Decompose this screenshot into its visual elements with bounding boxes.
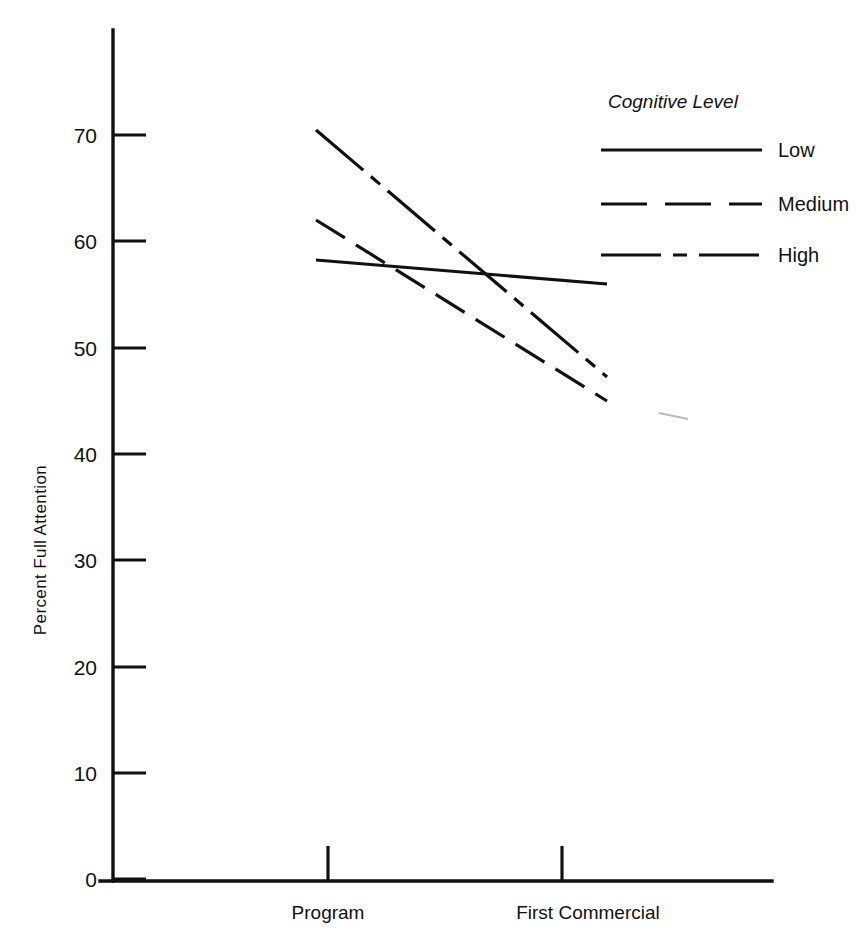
scan-artifact-mark <box>659 413 688 419</box>
series-group <box>316 130 607 401</box>
y-tick-label-60: 60 <box>74 230 97 253</box>
series-line-high <box>316 130 607 377</box>
legend-entry-low[interactable]: Low <box>601 139 815 161</box>
chart-figure: 70 60 50 40 30 20 10 0 Percent Full Atte… <box>0 0 861 943</box>
y-tick-label-10: 10 <box>74 762 97 785</box>
y-tick-label-50: 50 <box>74 337 97 360</box>
x-category-label-program: Program <box>292 902 365 923</box>
y-tick-label-0: 0 <box>85 868 97 891</box>
legend: Cognitive Level Low Medium High <box>601 91 849 266</box>
series-line-low <box>316 260 607 284</box>
y-tick-label-30: 30 <box>74 549 97 572</box>
legend-label-high: High <box>778 244 819 266</box>
y-tick-label-40: 40 <box>74 443 97 466</box>
x-axis <box>100 846 772 881</box>
line-chart: 70 60 50 40 30 20 10 0 Percent Full Atte… <box>0 0 861 943</box>
legend-label-low: Low <box>778 139 815 161</box>
legend-entry-high[interactable]: High <box>601 244 819 266</box>
y-tick-label-20: 20 <box>74 656 97 679</box>
y-tick-label-70: 70 <box>74 124 97 147</box>
x-category-label-first-commercial: First Commercial <box>516 902 660 923</box>
legend-entry-medium[interactable]: Medium <box>601 193 849 215</box>
y-axis <box>113 30 146 881</box>
legend-title: Cognitive Level <box>608 91 739 112</box>
series-line-medium <box>316 220 607 401</box>
legend-label-medium: Medium <box>778 193 849 215</box>
y-axis-title: Percent Full Attention <box>31 465 50 635</box>
